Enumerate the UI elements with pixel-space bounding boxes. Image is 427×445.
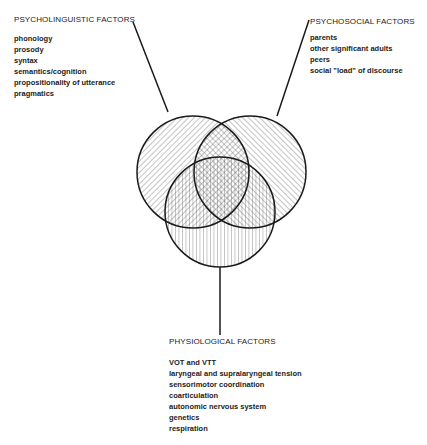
physiological-factors-label: PHYSIOLOGICAL FACTORS VOT and VTT laryng… <box>169 337 302 434</box>
list-item: peers <box>310 54 415 65</box>
psychosocial-list: parents other significant adults peers s… <box>310 32 415 76</box>
list-item: VOT and VTT <box>169 357 302 368</box>
list-item: semantics/cognition <box>14 66 135 77</box>
list-item: parents <box>310 32 415 43</box>
psycholinguistic-factors-label: PSYCHOLINGUISTIC FACTORS phonology proso… <box>14 15 135 99</box>
physiological-heading: PHYSIOLOGICAL FACTORS <box>169 337 302 346</box>
psycholinguistic-list: phonology prosody syntax semantics/cogni… <box>14 33 135 99</box>
list-item: prosody <box>14 44 135 55</box>
list-item: phonology <box>14 33 135 44</box>
psycholinguistic-leader-line <box>133 22 168 112</box>
psycholinguistic-heading: PSYCHOLINGUISTIC FACTORS <box>14 15 135 24</box>
list-item: autonomic nervous system <box>169 401 302 412</box>
list-item: syntax <box>14 55 135 66</box>
list-item: respiration <box>169 423 302 434</box>
psychosocial-leader-line <box>277 20 309 116</box>
list-item: coarticulation <box>169 390 302 401</box>
list-item: sensorimotor coordination <box>169 379 302 390</box>
psychosocial-heading: PSYCHOSOCIAL FACTORS <box>310 17 415 26</box>
psychosocial-factors-label: PSYCHOSOCIAL FACTORS parents other signi… <box>310 17 415 76</box>
list-item: laryngeal and supralaryngeal tension <box>169 368 302 379</box>
list-item: genetics <box>169 412 302 423</box>
list-item: propositionality of utterance <box>14 77 135 88</box>
list-item: social "load" of discourse <box>310 65 415 76</box>
physiological-list: VOT and VTT laryngeal and supralaryngeal… <box>169 357 302 434</box>
list-item: other significant adults <box>310 43 415 54</box>
list-item: pragmatics <box>14 88 135 99</box>
